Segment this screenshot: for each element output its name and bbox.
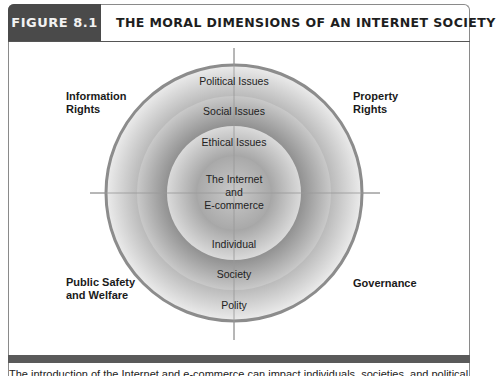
label-political-issues: Political Issues bbox=[174, 75, 294, 88]
label-center-line-2: and bbox=[174, 186, 294, 199]
label-center-line-1: The Internet bbox=[174, 173, 294, 186]
label-individual: Individual bbox=[174, 238, 294, 251]
label-social-issues: Social Issues bbox=[174, 105, 294, 118]
quadrant-property-rights: Property Rights bbox=[353, 90, 398, 116]
label-society: Society bbox=[174, 268, 294, 281]
label-ethical-issues: Ethical Issues bbox=[174, 136, 294, 149]
quadrant-public-safety: Public Safety and Welfare bbox=[66, 276, 135, 302]
figure-caption: The introduction of the Internet and e-c… bbox=[9, 366, 469, 376]
quadrant-information-rights: Information Rights bbox=[66, 90, 127, 116]
figure-bottom-bar bbox=[8, 355, 470, 363]
label-polity: Polity bbox=[174, 299, 294, 312]
quadrant-governance: Governance bbox=[353, 277, 417, 290]
label-center-line-3: E-commerce bbox=[174, 199, 294, 212]
